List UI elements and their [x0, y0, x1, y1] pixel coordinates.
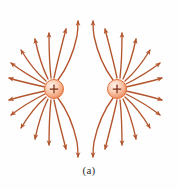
figure-caption: (a) [0, 164, 178, 176]
left-positive-charge [45, 80, 64, 99]
electric-field-figure: (a) [0, 0, 178, 189]
left-charge-field-lines [9, 21, 78, 157]
field-line-canvas [0, 0, 178, 167]
right-charge-field-lines [93, 21, 162, 157]
right-positive-charge [108, 80, 127, 99]
